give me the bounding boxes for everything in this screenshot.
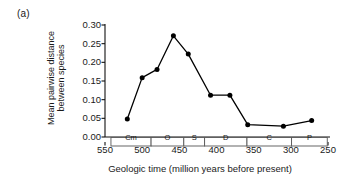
data-point-1 bbox=[140, 75, 145, 80]
period-label-O: O bbox=[151, 134, 184, 142]
x-axis-title: Geologic time (million years before pres… bbox=[60, 163, 340, 174]
data-series-line bbox=[127, 36, 311, 126]
data-point-8 bbox=[281, 124, 286, 129]
figure-panel-a: (a) Mean pairwise distance between speci… bbox=[0, 0, 345, 185]
axes bbox=[102, 24, 331, 146]
data-point-6 bbox=[227, 93, 232, 98]
data-point-2 bbox=[155, 67, 160, 72]
period-label-Cm: Cm bbox=[111, 134, 151, 142]
data-point-9 bbox=[309, 118, 314, 123]
data-point-4 bbox=[186, 52, 191, 57]
series-line bbox=[127, 36, 311, 126]
data-point-5 bbox=[208, 93, 213, 98]
period-label-C: C bbox=[247, 134, 292, 142]
data-point-3 bbox=[171, 33, 176, 38]
data-point-7 bbox=[245, 122, 250, 127]
period-label-P: P bbox=[292, 134, 328, 142]
period-label-D: D bbox=[205, 134, 247, 142]
period-label-S: S bbox=[184, 134, 205, 142]
chart-canvas bbox=[0, 0, 345, 185]
data-points bbox=[125, 33, 314, 128]
data-point-0 bbox=[125, 117, 130, 122]
